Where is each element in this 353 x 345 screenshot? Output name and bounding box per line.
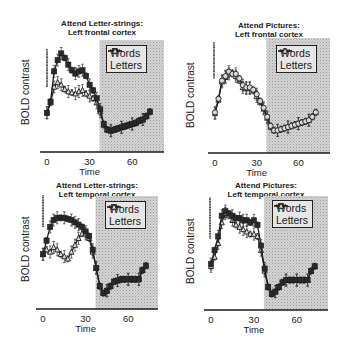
- data-point-words: [52, 69, 57, 74]
- legend-label: Letters: [109, 215, 141, 227]
- data-point-words: [40, 252, 45, 257]
- data-point-words: [310, 114, 315, 119]
- data-point-words: [62, 55, 67, 60]
- legend: WordsLetters: [106, 45, 147, 73]
- data-point-words: [233, 71, 238, 76]
- data-point-words: [268, 123, 273, 128]
- y-axis-label: BOLD contrast: [20, 59, 31, 125]
- data-point-words: [305, 278, 310, 283]
- panel-bottom-right: Attend Pictures:Left temporal cortexBOLD…: [176, 170, 352, 342]
- data-point-words: [216, 234, 221, 239]
- x-tick-label: 60: [127, 156, 138, 167]
- data-point-words: [237, 76, 242, 81]
- data-point-words: [208, 261, 213, 266]
- legend: WordsLetters: [105, 201, 146, 229]
- data-point-words: [258, 243, 263, 248]
- data-point-words: [98, 107, 103, 112]
- data-point-words: [266, 284, 271, 289]
- x-tick-label: 0: [40, 313, 45, 324]
- data-point-words: [265, 114, 270, 119]
- legend-item-letters: Letters: [110, 59, 142, 71]
- data-point-letters: [80, 87, 85, 92]
- data-point-words: [90, 247, 95, 252]
- x-tick-label: 60: [292, 314, 303, 325]
- data-point-words: [83, 73, 88, 78]
- data-point-words: [255, 222, 260, 227]
- data-point-words: [261, 105, 266, 110]
- panel-bottom-left: Attend Letter-strings:Left temporal cort…: [0, 170, 176, 342]
- data-point-words: [258, 98, 263, 103]
- legend-label: Letters: [280, 59, 312, 71]
- legend-item-letters: Letters: [109, 215, 141, 227]
- data-point-words: [94, 265, 99, 270]
- data-point-words: [97, 284, 102, 289]
- y-axis-label: BOLD contrast: [20, 216, 31, 282]
- data-point-words: [87, 233, 92, 238]
- data-point-words: [219, 78, 224, 83]
- data-point-words: [87, 82, 92, 87]
- data-point-words: [44, 238, 49, 243]
- data-point-letters: [55, 80, 60, 85]
- legend: WordsLetters: [276, 45, 317, 73]
- y-axis-label: BOLD contrast: [185, 62, 196, 128]
- panel-top-left: Attend Letter-strings:Left frontal corte…: [0, 0, 176, 172]
- data-point-words: [94, 96, 99, 101]
- data-point-words: [312, 264, 317, 269]
- x-axis-label: Time: [75, 323, 96, 334]
- data-point-words: [212, 248, 217, 253]
- data-point-letters: [51, 244, 56, 249]
- x-tick-label: 60: [123, 313, 134, 324]
- panel-top-right: Attend Pictures:Left frontal cortexBOLD …: [176, 0, 352, 172]
- legend-item-letters: Letters: [280, 59, 312, 71]
- legend-marker-open-triangle-icon: [273, 201, 289, 211]
- data-point-words: [212, 110, 217, 115]
- data-point-words: [101, 121, 106, 126]
- data-point-words: [223, 74, 228, 79]
- data-point-words: [48, 99, 53, 104]
- legend-marker-open-triangle-icon: [107, 46, 123, 56]
- x-tick-label: 0: [212, 157, 217, 168]
- legend-label: Letters: [276, 214, 308, 226]
- legend-item-letters: Letters: [276, 214, 308, 226]
- x-tick-label: 0: [208, 314, 213, 325]
- data-point-words: [147, 109, 152, 114]
- data-point-words: [48, 224, 53, 229]
- legend: WordsLetters: [272, 200, 313, 228]
- data-point-words: [66, 62, 71, 67]
- data-point-words: [251, 87, 256, 92]
- x-tick-label: 60: [293, 157, 304, 168]
- data-point-words: [313, 110, 318, 115]
- data-point-words: [262, 266, 267, 271]
- x-axis-label: Time: [244, 324, 265, 335]
- x-tick-label: 0: [44, 156, 49, 167]
- data-point-words: [216, 96, 221, 101]
- legend-label: Letters: [110, 59, 142, 71]
- plot-area: [176, 0, 352, 172]
- data-point-words: [254, 92, 259, 97]
- y-axis-label: BOLD contrast: [185, 218, 196, 284]
- data-point-words: [91, 88, 96, 93]
- legend-marker-open-triangle-icon: [277, 46, 293, 56]
- data-point-words: [80, 68, 85, 73]
- data-point-words: [44, 110, 49, 115]
- data-point-words: [143, 263, 148, 268]
- data-point-words: [136, 277, 141, 282]
- data-point-words: [55, 58, 60, 63]
- legend-marker-open-triangle-icon: [106, 202, 122, 212]
- plot-area: [176, 170, 352, 342]
